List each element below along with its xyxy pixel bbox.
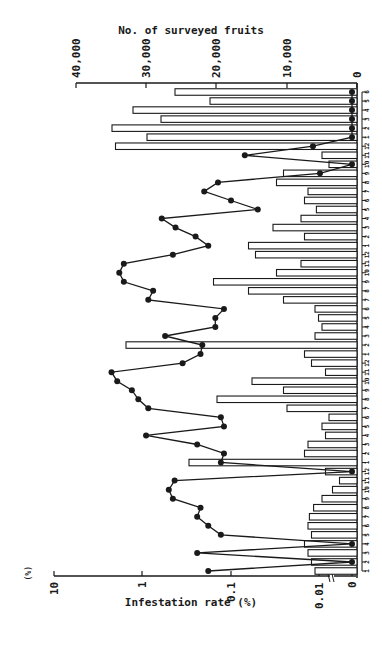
infestation-rate-point (212, 324, 218, 330)
month-tick-label: 5 (363, 207, 370, 211)
infestation-rate-point (180, 360, 186, 366)
infestation-rate-point (166, 487, 172, 493)
infestation-rate-point (170, 496, 176, 502)
chart-container: No. of surveyed fruits 010,00020,00030,0… (0, 0, 382, 649)
month-tick-label: 9 (363, 280, 370, 284)
month-tick-label: 5 (363, 533, 370, 537)
fruit-count-bar (133, 107, 357, 114)
month-tick-label: 4 (363, 433, 370, 437)
fruit-count-bar (287, 405, 357, 412)
month-tick-label: 6 (363, 198, 370, 202)
infestation-rate-point (143, 432, 149, 438)
infestation-rate-point (198, 505, 204, 511)
infestation-rate-point (205, 523, 211, 529)
fruit-count-bar (301, 260, 357, 267)
infestation-rate-point (135, 396, 141, 402)
top-axis-tick-label: 10,000 (281, 38, 294, 78)
infestation-rate-point (121, 279, 127, 285)
fruit-count-bar (249, 288, 358, 295)
infestation-rate-point (221, 306, 227, 312)
month-tick-label: 11 (363, 368, 370, 376)
unit-label: (%) (23, 566, 32, 580)
bottom-axis-tick-label: 1 (136, 581, 149, 588)
fruit-count-bar (326, 369, 358, 376)
fruit-count-bar (277, 179, 358, 186)
top-axis-tick-label: 40,000 (70, 38, 83, 78)
infestation-rate-point (194, 441, 200, 447)
month-tick-label: 8 (363, 506, 370, 510)
infestation-rate-point (349, 89, 355, 95)
infestation-rate-point (145, 405, 151, 411)
month-tick-label: 3 (363, 442, 370, 446)
fruit-count-bar (312, 532, 358, 539)
month-tick-label: 5 (363, 99, 370, 103)
month-tick-label: 4 (363, 542, 370, 546)
month-tick-label: 2 (363, 451, 370, 455)
infestation-rate-point (193, 234, 199, 240)
bottom-axis-tick-label: 10 (48, 582, 61, 595)
fruit-count-bar (284, 297, 358, 304)
infestation-rate-point (150, 288, 156, 294)
fruit-count-bar (308, 550, 357, 557)
month-tick-label: 5 (363, 424, 370, 428)
fruit-count-bar (273, 224, 357, 231)
month-tick-label: 2 (363, 343, 370, 347)
month-tick-label: 7 (363, 298, 370, 302)
month-tick-label: 1 (363, 569, 370, 573)
fruit-count-bar (126, 342, 357, 349)
infestation-rate-point (172, 478, 178, 484)
fruit-count-bar (249, 242, 358, 249)
fruit-count-bar (322, 423, 357, 430)
fruit-count-bar (326, 432, 358, 439)
fruit-count-bar (214, 279, 358, 286)
month-tick-label: 6 (363, 90, 370, 94)
fruit-count-bar (308, 523, 357, 530)
month-tick-label: 1 (363, 460, 370, 464)
fruit-count-bar (309, 514, 357, 521)
fruit-count-bar (277, 270, 358, 277)
infestation-rate-point (109, 369, 115, 375)
fruit-count-bar (340, 477, 358, 484)
fruit-count-bar (305, 351, 358, 358)
infestation-rate-line (112, 92, 353, 571)
bottom-axis-title: Infestation rate (%) (0, 596, 382, 609)
infestation-rate-point (170, 252, 176, 258)
infestation-rate-point (215, 179, 221, 185)
month-tick-label: 8 (363, 180, 370, 184)
fruit-count-bar (322, 495, 357, 502)
fruit-count-bar (308, 441, 357, 448)
fruit-count-bar (305, 197, 358, 204)
infestation-rate-point (194, 550, 200, 556)
infestation-rate-point (349, 541, 355, 547)
month-tick-label: 9 (363, 496, 370, 500)
fruit-count-bar (322, 152, 357, 159)
fruit-count-bar (322, 324, 357, 331)
infestation-rate-point (242, 152, 248, 158)
infestation-rate-point (349, 161, 355, 167)
infestation-rate-point (145, 297, 151, 303)
month-tick-label: 1 (363, 135, 370, 139)
month-tick-label: 1 (363, 243, 370, 247)
month-tick-label: 7 (363, 515, 370, 519)
month-tick-label: 3 (363, 334, 370, 338)
fruit-count-bar (217, 396, 357, 403)
infestation-rate-point (218, 532, 224, 538)
month-tick-label: 8 (363, 397, 370, 401)
month-tick-label: 6 (363, 415, 370, 419)
fruit-count-bar (316, 206, 357, 213)
fruit-count-bar (175, 89, 357, 96)
month-tick-label: 1 (363, 352, 370, 356)
top-axis-tick-label: 20,000 (210, 38, 223, 78)
infestation-rate-point (317, 170, 323, 176)
month-tick-label: 5 (363, 316, 370, 320)
infestation-rate-point (198, 351, 204, 357)
month-tick-label: 2 (363, 234, 370, 238)
infestation-rate-point (114, 378, 120, 384)
plot-area: 010,00020,00030,00040,0001010.10.0101234… (0, 0, 382, 649)
month-tick-label: 12 (363, 142, 370, 150)
infestation-rate-point (349, 559, 355, 565)
infestation-rate-point (201, 188, 207, 194)
infestation-rate-point (349, 107, 355, 113)
month-tick-label: 11 (363, 477, 370, 485)
month-tick-label: 2 (363, 126, 370, 130)
